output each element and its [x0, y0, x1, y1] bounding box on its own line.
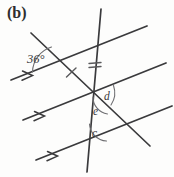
parallel-line-bottom — [36, 106, 172, 160]
angle-arc-d — [111, 86, 115, 106]
angle-label-36: 36° — [27, 53, 45, 66]
tick-mark-double-vertical — [89, 63, 101, 68]
tick-mark-single-diagonal — [67, 68, 77, 77]
geometry-figure-panel: (b) 36° d e c — [0, 0, 174, 177]
parallel-lines-group — [11, 26, 172, 160]
transversal-lines-group — [31, 9, 150, 172]
angle-label-c: c — [92, 128, 97, 140]
geometry-diagram-canvas — [0, 0, 174, 177]
parallel-arrow-markers-group — [22, 71, 58, 161]
angle-label-d: d — [104, 91, 110, 103]
panel-label: (b) — [7, 5, 27, 21]
angle-label-e: e — [93, 106, 98, 118]
